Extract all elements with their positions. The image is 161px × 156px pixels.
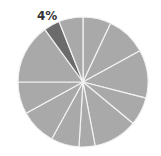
pie-chart: [0, 0, 161, 156]
highlight-slice-label: 4%: [37, 9, 57, 23]
